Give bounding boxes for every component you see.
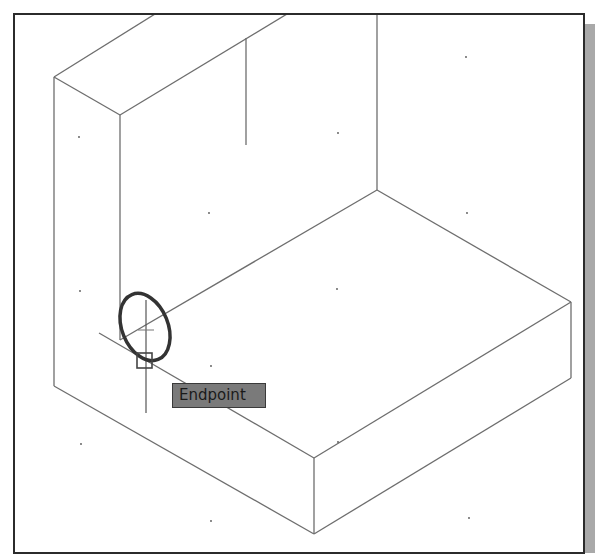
model-edge (120, 14, 287, 115)
model-edge (54, 386, 314, 534)
model-edge (314, 378, 571, 534)
grid-dot (210, 520, 212, 522)
grid-dot (337, 132, 339, 134)
model-edge (54, 14, 155, 77)
model-edge (120, 190, 377, 340)
highlight-ellipse (111, 286, 180, 368)
grid-dot (337, 441, 339, 443)
grid-dot (80, 443, 82, 445)
osnap-tooltip: Endpoint (172, 383, 266, 408)
grid-dot (336, 288, 338, 290)
grid-dot (208, 212, 210, 214)
grid-dots (78, 56, 470, 522)
endpoint-snap-marker (111, 286, 180, 368)
osnap-tooltip-label: Endpoint (179, 386, 246, 404)
frame-shadow-right (584, 24, 595, 553)
model-edge (54, 77, 120, 115)
grid-dot (210, 365, 212, 367)
grid-dot (468, 517, 470, 519)
grid-dot (78, 136, 80, 138)
drawing-viewport[interactable]: Endpoint (13, 13, 585, 554)
grid-dot (466, 212, 468, 214)
grid-dot (465, 56, 467, 58)
model-edges (54, 14, 571, 534)
model-wireframe[interactable] (13, 13, 585, 553)
model-edge (377, 190, 571, 302)
grid-dot (79, 290, 81, 292)
model-edge (314, 302, 571, 458)
